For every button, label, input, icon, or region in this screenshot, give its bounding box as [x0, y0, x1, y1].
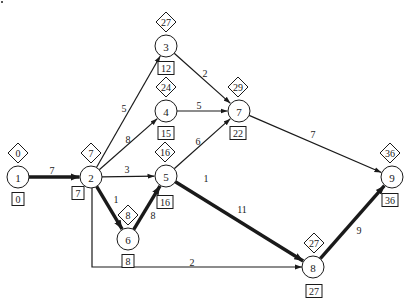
- node-1: 010: [7, 143, 29, 206]
- node-3: 27312: [155, 12, 177, 75]
- edge-6-to-5: [134, 186, 160, 230]
- edge-weight-7-9: 7: [311, 129, 316, 140]
- latest-time-value: 16: [160, 147, 170, 158]
- edges-layer: [29, 53, 384, 267]
- latest-time-value: 0: [16, 148, 21, 159]
- node-7: 29722: [228, 77, 250, 140]
- node-label: 7: [236, 106, 242, 118]
- edge-weight-2-5: 3: [125, 164, 130, 175]
- earliest-time-value: 22: [233, 128, 243, 139]
- edge-5-to-7: [174, 119, 230, 169]
- edge-weight-1-2: 7: [50, 165, 55, 176]
- edge-8-to-9: [320, 186, 384, 259]
- edge-weight-2-6: 1: [114, 194, 119, 205]
- network-diagram: 758318256117921 010727273122441516516868…: [0, 0, 415, 304]
- edge-7-to-9: [249, 115, 381, 172]
- node-label: 9: [389, 172, 395, 184]
- node-label: 6: [125, 234, 131, 246]
- edge-weight-2-3: 5: [122, 103, 127, 114]
- earliest-time-value: 27: [309, 286, 319, 297]
- latest-time-value: 27: [309, 238, 319, 249]
- edge-2-to-3: [96, 56, 160, 167]
- edge-weight-6-5: 8: [151, 210, 156, 221]
- earliest-time-value: 7: [76, 188, 81, 199]
- latest-time-value: 29: [233, 82, 243, 93]
- latest-time-value: 7: [89, 148, 94, 159]
- node-label: 5: [163, 171, 169, 183]
- node-label: 8: [310, 262, 316, 274]
- stray-label: 1: [204, 173, 209, 184]
- edge-weight-3-7: 2: [203, 68, 208, 79]
- node-9: 36936: [380, 143, 403, 207]
- edge-weight-5-7: 6: [196, 136, 201, 147]
- earliest-time-value: 36: [385, 195, 395, 206]
- node-4: 24415: [155, 77, 177, 140]
- node-8: 27827: [302, 233, 324, 298]
- node-5: 16516: [155, 142, 177, 209]
- node-label: 1: [15, 172, 21, 184]
- node-label: 4: [163, 106, 169, 118]
- edge-2-to-5: [102, 176, 155, 177]
- node-6: 868: [117, 205, 139, 268]
- node-label: 3: [163, 41, 169, 53]
- latest-time-value: 27: [161, 17, 171, 28]
- earliest-time-value: 8: [126, 256, 131, 267]
- edge-5-to-8: [175, 182, 303, 261]
- latest-time-value: 8: [126, 210, 131, 221]
- edge-weight-5-8: 11: [237, 204, 247, 215]
- nodes-layer: 010727273122441516516868297222782736936: [7, 12, 403, 298]
- scan-artifact-dot: [1, 1, 3, 3]
- earliest-time-value: 16: [160, 197, 170, 208]
- edge-weight-2-8: 2: [190, 257, 195, 268]
- node-label: 2: [88, 172, 94, 184]
- earliest-time-value: 15: [161, 128, 171, 139]
- earliest-time-value: 0: [16, 194, 21, 205]
- earliest-time-value: 12: [161, 63, 171, 74]
- latest-time-value: 24: [161, 82, 171, 93]
- edge-weight-2-4: 8: [126, 134, 131, 145]
- edge-weight-8-9: 9: [357, 225, 362, 236]
- latest-time-value: 36: [385, 148, 395, 159]
- edge-weight-4-7: 5: [197, 100, 202, 111]
